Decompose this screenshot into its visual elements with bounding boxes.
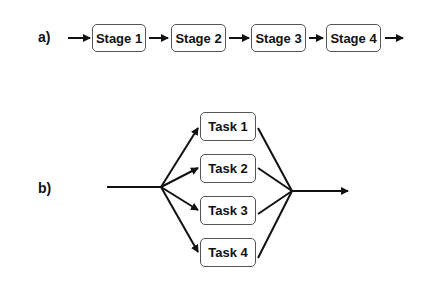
task-4-box: Task 4 bbox=[200, 238, 256, 267]
stage-4-box: Stage 4 bbox=[326, 24, 381, 52]
panel-b-label: b) bbox=[38, 180, 51, 196]
task-3-box: Task 3 bbox=[200, 196, 256, 225]
stage-3-box: Stage 3 bbox=[251, 24, 306, 52]
task-1-box: Task 1 bbox=[200, 112, 256, 141]
panel-a-label: a) bbox=[38, 29, 50, 45]
stage-2-box: Stage 2 bbox=[171, 24, 226, 52]
stage-1-box: Stage 1 bbox=[92, 24, 146, 52]
task-2-box: Task 2 bbox=[200, 154, 256, 183]
